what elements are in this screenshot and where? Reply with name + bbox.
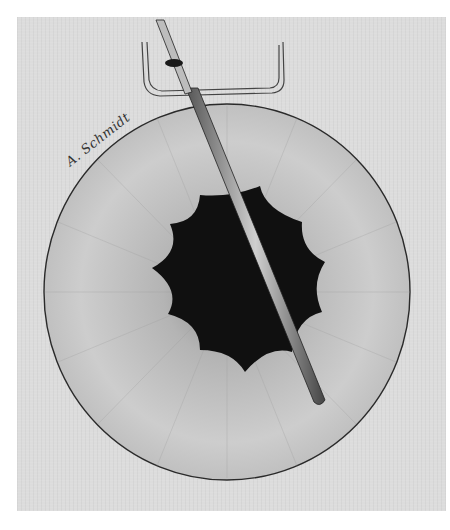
retractor-outline — [142, 42, 284, 96]
illustration-drawing — [0, 0, 450, 530]
